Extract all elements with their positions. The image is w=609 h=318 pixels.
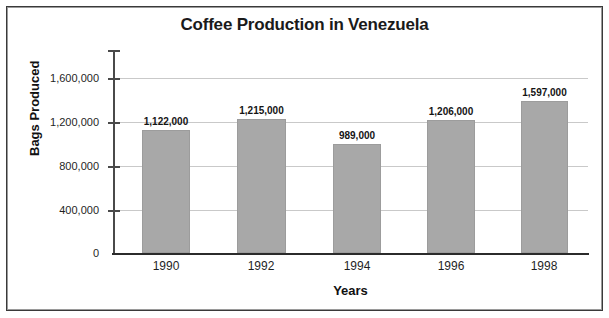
y-tick-label-0: 0 [93, 247, 99, 259]
y-tick-1200000: 1,200,000 [108, 122, 120, 124]
bar-1998[interactable]: 1,597,000 [521, 101, 568, 253]
chart-title: Coffee Production in Venezuela [0, 15, 609, 35]
y-tick-800000: 800,000 [108, 166, 120, 168]
x-axis-title: Years [113, 283, 588, 298]
y-tick-0: 0 [108, 253, 120, 255]
y-tick-label-800000: 800,000 [59, 160, 99, 172]
x-tick-label-1996: 1996 [438, 259, 465, 273]
bar-value-1996: 1,206,000 [429, 106, 474, 117]
x-axis-line [112, 253, 589, 255]
bar-value-1994: 989,000 [339, 130, 375, 141]
y-tick-400000: 400,000 [108, 210, 120, 212]
x-tick-label-1994: 1994 [344, 259, 371, 273]
bar-1996[interactable]: 1,206,000 [427, 120, 475, 253]
x-tick-label-1990: 1990 [153, 259, 180, 273]
x-tick-label-1998: 1998 [531, 259, 558, 273]
y-axis-line [113, 50, 115, 255]
chart-figure: Coffee Production in Venezuela Bags Prod… [0, 0, 609, 318]
bar-value-1992: 1,215,000 [239, 105, 284, 116]
y-tick-label-1600000: 1,600,000 [50, 72, 99, 84]
bar-1990[interactable]: 1,122,000 [142, 130, 190, 253]
bar-value-1998: 1,597,000 [522, 87, 567, 98]
y-tick-1600000: 1,600,000 [108, 78, 120, 80]
bar-value-1990: 1,122,000 [144, 116, 189, 127]
bar-1992[interactable]: 1,215,000 [237, 119, 286, 253]
gridline-1600000 [115, 78, 588, 79]
y-tick-label-1200000: 1,200,000 [50, 116, 99, 128]
plot-area: 1,600,000 1,200,000 800,000 400,000 0 1,… [113, 50, 588, 255]
y-tick-label-400000: 400,000 [59, 204, 99, 216]
x-tick-label-1992: 1992 [248, 259, 275, 273]
y-axis-top-cap [108, 50, 120, 52]
y-axis-title: Bags Produced [27, 61, 42, 156]
bar-1994[interactable]: 989,000 [333, 144, 381, 253]
